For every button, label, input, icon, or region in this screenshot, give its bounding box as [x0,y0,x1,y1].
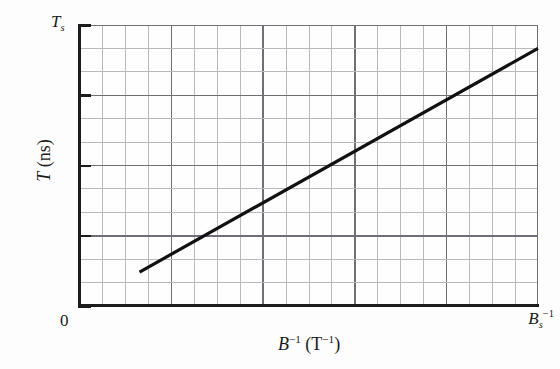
x-axis-title: B−1 (T−1) [80,334,538,355]
x-axis-title-exponent: −1 [289,333,301,345]
x-axis-max-superscript: −1 [543,308,554,319]
series-line-0 [140,48,538,272]
x-axis-title-unit-close: ) [334,334,340,354]
y-axis-title-unit: (ns) [34,139,54,167]
x-axis-max-subscript: s [539,319,543,330]
data-series-line [80,25,538,306]
x-axis-origin-label: 0 [60,311,69,331]
y-axis-tick-major [78,94,91,97]
y-axis-tick-major [78,165,91,168]
plot-area [80,25,538,306]
y-axis-max-label: Ts [51,12,65,32]
y-axis-max-subscript: s [60,22,64,33]
chart-figure: Ts 0 Bs−1 T (ns) B−1 (T−1) [0,0,560,369]
y-axis-tick-major [78,24,91,27]
y-axis-title: T (ns) [34,101,55,221]
y-axis-tick-major [78,305,91,308]
x-axis-title-unit-exponent: −1 [322,333,334,345]
y-axis-tick-major [78,235,91,238]
y-axis-title-symbol: T [34,172,54,182]
x-axis-max-symbol: B [528,309,538,328]
x-axis-max-label: Bs−1 [528,309,554,329]
x-axis-title-unit-open: (T [305,334,322,354]
x-axis-line [78,304,539,307]
x-axis-title-symbol: B [278,334,289,354]
